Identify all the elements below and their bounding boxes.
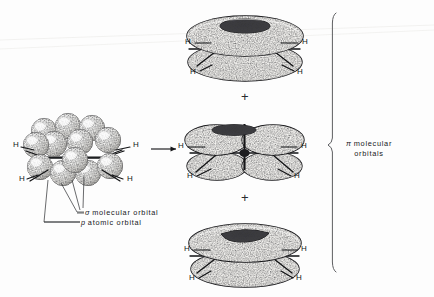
bracket-label-line2: orbitals: [354, 149, 383, 158]
pi-molecular-orbitals-bracket: [328, 13, 336, 272]
p-atomic-orbital-label: p atomic orbital: [81, 218, 142, 227]
h-label: H: [301, 245, 307, 253]
pi-symbol: π: [346, 139, 351, 148]
pi-orbital-four-lobe-middle: [185, 124, 304, 180]
p-symbol: p: [81, 218, 85, 227]
h-label: H: [296, 274, 302, 282]
pi-orbital-torus-pair-bottom: [189, 224, 301, 287]
h-label: H: [294, 172, 300, 180]
bracket-label-line1: molecular: [354, 139, 392, 148]
p-callout-text: atomic orbital: [88, 218, 142, 227]
h-label: H: [301, 142, 307, 150]
sigma-callout-text: molecular orbital: [92, 208, 158, 217]
h-label: H: [133, 141, 139, 149]
h-label: H: [127, 175, 133, 183]
transformation-arrow: [151, 147, 176, 152]
h-label: H: [19, 175, 25, 183]
h-label: H: [190, 68, 196, 76]
h-label: H: [297, 68, 303, 76]
h-label: H: [189, 274, 195, 282]
h-label: H: [13, 141, 19, 149]
h-label: H: [185, 38, 191, 46]
plus-operator-lower: +: [241, 191, 249, 204]
h-label: H: [187, 172, 193, 180]
h-label: H: [178, 142, 184, 150]
pi-orbital-torus-pair-top: [187, 16, 303, 81]
p-orbital-sphere-cluster: [21, 113, 130, 222]
sigma-symbol: σ: [85, 208, 89, 217]
h-label: H: [302, 38, 308, 46]
sigma-molecular-orbital-label: σ molecular orbital: [85, 208, 158, 217]
bracket-label: π molecular orbitals: [346, 139, 392, 159]
h-label: H: [184, 245, 190, 253]
plus-operator-upper: +: [241, 90, 249, 103]
figure-canvas: H H H H H H H H H H H H H H H H + + σ mo…: [0, 0, 434, 297]
